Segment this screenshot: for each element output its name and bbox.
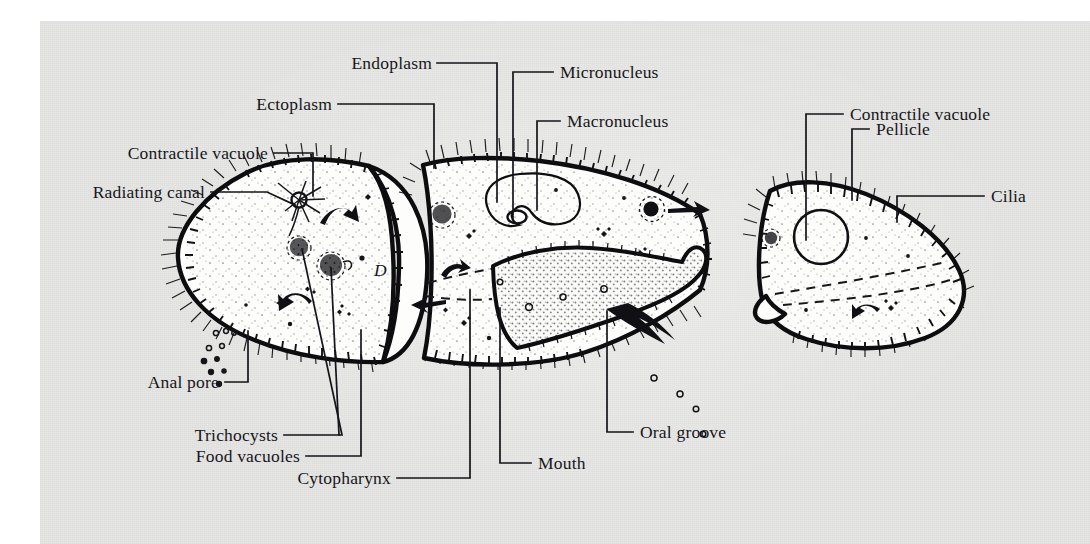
label-cytopharynx: Cytopharynx	[297, 468, 391, 488]
middle-cell-section	[399, 138, 712, 437]
leader-ectoplasm	[338, 104, 434, 168]
cut-face-granule	[359, 255, 364, 260]
anterior-marking-d: D	[373, 260, 387, 280]
label-endoplasm: Endoplasm	[351, 53, 432, 73]
label-food-vacuoles: Food vacuoles	[196, 446, 300, 466]
label-contractile-vacuole-left: Contractile vacuole	[128, 143, 268, 163]
label-ectoplasm: Ectoplasm	[256, 94, 332, 114]
label-cilia: Cilia	[991, 186, 1026, 206]
label-macronucleus: Macronucleus	[567, 111, 669, 131]
label-mouth: Mouth	[538, 453, 586, 473]
leader-anal-pore	[225, 331, 248, 382]
label-pellicle: Pellicle	[876, 119, 930, 139]
paramecium-diagram: D	[0, 0, 1090, 544]
label-trichocysts: Trichocysts	[195, 425, 278, 445]
label-oral-groove: Oral groove	[640, 422, 726, 442]
figure-page: D	[0, 0, 1090, 544]
right-cell-section	[743, 171, 974, 357]
label-radiating-canal: Radiating canal	[93, 182, 205, 202]
left-cell-section: D	[161, 143, 427, 386]
label-micronucleus: Micronucleus	[560, 62, 659, 82]
label-anal-pore: Anal pore	[148, 372, 219, 392]
